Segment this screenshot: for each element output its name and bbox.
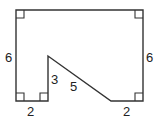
polygon-outline xyxy=(16,10,143,101)
label-left-side: 6 xyxy=(5,50,12,65)
right-angle-markers xyxy=(16,10,143,101)
label-bottom-right: 2 xyxy=(123,104,130,119)
label-bottom-left: 2 xyxy=(27,104,34,119)
right-angle-marker-inner-bottom xyxy=(40,93,48,101)
right-angle-marker-top-right xyxy=(135,10,143,18)
right-angle-marker-bottom-right xyxy=(135,93,143,101)
label-diagonal: 5 xyxy=(70,79,77,94)
right-angle-marker-bottom-left xyxy=(16,93,24,101)
right-angle-marker-top-left xyxy=(16,10,24,18)
label-right-side: 6 xyxy=(146,50,153,65)
polygon-figure: 6 6 2 3 5 2 xyxy=(0,0,160,121)
label-inner-vertical: 3 xyxy=(51,72,58,87)
